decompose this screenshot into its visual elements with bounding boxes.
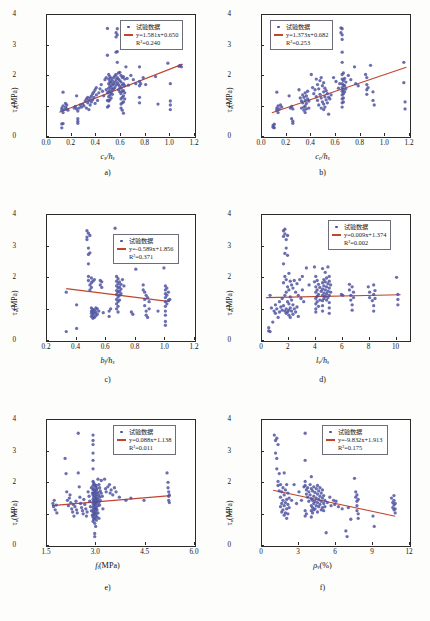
data-point [289, 306, 292, 309]
data-point [324, 89, 327, 92]
legend-dot-icon [124, 26, 133, 29]
data-point [328, 294, 331, 297]
legend-series-label: 试验数据 [129, 237, 153, 245]
data-point [279, 483, 282, 486]
data-point [316, 99, 319, 102]
y-axis-tick-label: 4 [12, 10, 16, 18]
panel-b-caption: b) [215, 168, 430, 177]
data-point [287, 506, 290, 509]
data-point [285, 291, 288, 294]
x-axis-tick-mark [194, 542, 195, 545]
y-axis-tick-mark [46, 75, 49, 76]
data-point [394, 511, 397, 514]
data-point [322, 494, 325, 497]
legend-dot-icon [332, 226, 341, 229]
data-point [305, 512, 308, 515]
y-axis-tick-label: 2 [12, 71, 16, 79]
legend-line-icon [117, 248, 126, 249]
y-axis-tick-label: 0 [12, 336, 16, 344]
x-axis-tick-label: 12 [405, 548, 412, 556]
y-axis-tick-mark [46, 277, 49, 278]
panel-f-caption: f) [215, 583, 430, 592]
y-axis-tick-label: 3 [12, 242, 16, 250]
x-axis-tick-label: 1.2 [190, 139, 199, 147]
data-point [290, 309, 293, 312]
data-point [276, 480, 279, 483]
data-point [392, 499, 395, 502]
data-point [355, 509, 358, 512]
x-axis-tick-mark [409, 133, 410, 136]
data-point [275, 437, 278, 440]
panel-d-caption: d) [215, 375, 430, 384]
legend-line-icon [274, 34, 283, 35]
data-point [55, 511, 58, 514]
data-point [180, 65, 183, 68]
legend-r2-row: R²=0.371 [117, 253, 174, 261]
data-point [65, 291, 68, 294]
data-point [283, 294, 286, 297]
data-point [106, 27, 109, 30]
data-point [280, 490, 283, 493]
y-axis-tick-mark [261, 75, 264, 76]
panel-a: τu(MPa) 012340.00.20.40.60.81.01.2 试验数据y… [0, 0, 215, 200]
data-point [95, 86, 98, 89]
data-point [93, 278, 96, 281]
data-point [345, 535, 348, 538]
y-axis-tick-label: 1 [12, 305, 16, 313]
data-point [75, 94, 78, 97]
data-point [286, 285, 289, 288]
data-point [113, 227, 116, 230]
data-point [343, 90, 346, 93]
data-point [321, 304, 324, 307]
data-point [276, 111, 279, 114]
data-point [337, 505, 340, 508]
y-axis-tick-label: 2 [12, 478, 16, 486]
data-point [282, 281, 285, 284]
figure-sheet: τu(MPa) 012340.00.20.40.60.81.01.2 试验数据y… [0, 0, 430, 621]
legend-series-row: 试验数据 [117, 237, 174, 245]
x-axis-tick-mark [315, 337, 316, 340]
data-point [146, 296, 149, 299]
data-point [394, 502, 397, 505]
x-axis-tick-mark [194, 337, 195, 340]
data-point [312, 92, 315, 95]
y-axis-tick-mark [46, 246, 49, 247]
x-axis-tick-label: 0.6 [331, 139, 340, 147]
data-point [102, 311, 105, 314]
data-point [109, 96, 112, 99]
data-point [165, 302, 168, 305]
data-point [169, 99, 172, 102]
data-point [121, 278, 124, 281]
y-axis-tick-label: 1 [227, 305, 231, 313]
data-point [96, 99, 99, 102]
data-point [328, 286, 331, 289]
data-point [91, 443, 94, 446]
data-point [327, 112, 330, 115]
data-point [373, 525, 376, 528]
data-point [328, 275, 331, 278]
data-point [131, 313, 134, 316]
data-point [371, 299, 374, 302]
data-point [124, 65, 127, 68]
data-point [274, 312, 277, 315]
data-point [138, 65, 141, 68]
data-point [344, 80, 347, 83]
x-axis-tick-label: 0.6 [116, 139, 125, 147]
data-point [289, 295, 292, 298]
x-axis-tick-label: 1.0 [160, 343, 169, 351]
legend-r2-label: R²=0.011 [129, 444, 153, 452]
x-axis-tick-label: 0.8 [355, 139, 364, 147]
data-point [82, 512, 85, 515]
data-point [349, 518, 352, 521]
data-point [139, 82, 142, 85]
data-point [284, 488, 287, 491]
data-point [97, 309, 100, 312]
x-axis-tick-mark [286, 133, 287, 136]
data-point [315, 95, 318, 98]
data-point [291, 313, 294, 316]
data-point [341, 33, 344, 36]
data-point [166, 486, 169, 489]
data-point [329, 504, 332, 507]
data-point [65, 103, 68, 106]
data-point [329, 283, 332, 286]
